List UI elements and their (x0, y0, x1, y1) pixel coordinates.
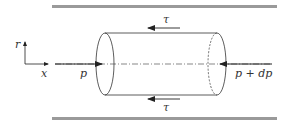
axis-label-x: x (41, 67, 48, 80)
axis-label-r: r (15, 38, 21, 51)
pressure-label-left: p (80, 67, 87, 80)
pressure-label-right: p + dp (235, 67, 272, 80)
pipe-wall-bottom (52, 117, 277, 120)
shear-label-top: τ (163, 13, 170, 26)
shear-label-bottom: τ (163, 101, 170, 114)
pipe-flow-diagram: τ τ p p + dp r x (0, 0, 291, 128)
coordinate-axes: r x (15, 38, 48, 80)
pipe-wall-top (52, 5, 277, 8)
